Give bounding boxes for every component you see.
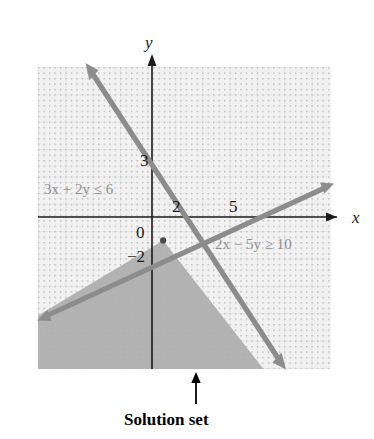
y-tick-label-3: 3	[140, 151, 149, 170]
solution-set-callout: Solution set	[124, 372, 209, 429]
inequality-graph-figure: 3 2 5 0 −2 y x 3x + 2y ≤ 6 2x − 5y ≥ 10 …	[0, 0, 374, 439]
x-tick-label-5: 5	[229, 197, 238, 216]
x-tick-label-2: 2	[172, 197, 181, 216]
intersection-point	[160, 237, 166, 243]
graph-svg: 3 2 5 0 −2 y x 3x + 2y ≤ 6 2x − 5y ≥ 10 …	[0, 0, 374, 439]
origin-label: 0	[136, 223, 145, 242]
x-axis-label: x	[351, 208, 360, 227]
solution-set-pointer-arrow	[191, 372, 200, 383]
inequality-label-one: 3x + 2y ≤ 6	[44, 181, 114, 197]
x-axis-arrowhead	[326, 213, 337, 222]
y-axis-label: y	[143, 33, 153, 52]
inequality-label-two: 2x − 5y ≥ 10	[215, 236, 292, 252]
y-tick-label-neg2: −2	[127, 247, 145, 266]
y-axis-arrowhead	[148, 54, 157, 66]
solution-set-caption: Solution set	[124, 410, 209, 429]
